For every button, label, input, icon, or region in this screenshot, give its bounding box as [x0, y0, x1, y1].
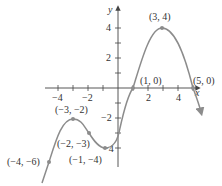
y-tick-label-2: 2	[106, 52, 111, 63]
point-label-m2-m3: (−2, −3)	[57, 138, 90, 150]
point-m3-m2	[71, 117, 75, 121]
point-5-0	[191, 86, 195, 90]
x-tick-label-2: 2	[146, 92, 151, 103]
point-label-m3-m2: (−3, −2)	[55, 104, 88, 116]
point-label-1-0: (1, 0)	[140, 75, 162, 87]
x-tick-label-4: 4	[176, 92, 181, 103]
y-tick-label-m2: −2	[101, 112, 112, 123]
point-label-m1-m4: (−1, −4)	[69, 154, 102, 166]
point-m4-m6	[47, 160, 51, 164]
x-tick-label-m2: −2	[82, 92, 93, 103]
point-3-4	[160, 26, 164, 30]
point-m2-m3	[87, 131, 91, 135]
y-tick-label-4: 4	[106, 22, 111, 33]
point-label-m4-m6: (−4, −6)	[7, 156, 40, 168]
x-tick-label-m4: −4	[52, 92, 63, 103]
function-graph: −4 −2 2 4 4 2 −2 −4 y x (−4, −6) (−3, −2…	[0, 0, 222, 186]
point-1-0	[131, 86, 135, 90]
y-axis-label: y	[107, 4, 113, 15]
point-label-5-0: (5, 0)	[193, 75, 215, 87]
point-m1-m4	[103, 146, 107, 150]
point-label-3-4: (3, 4)	[149, 11, 171, 23]
